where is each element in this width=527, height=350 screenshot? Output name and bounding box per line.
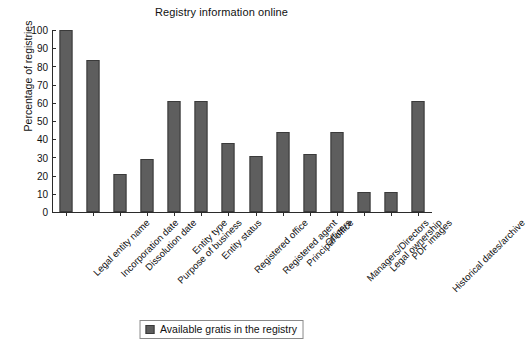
legend-item-label: Available gratis in the registry	[160, 323, 297, 335]
x-tick-mark	[337, 212, 338, 216]
bar-slot	[52, 30, 79, 212]
x-axis-line	[52, 212, 432, 213]
bar	[330, 132, 343, 212]
y-tick-label: 30	[37, 153, 52, 164]
bar-slot	[215, 30, 242, 212]
x-tick-mark	[201, 212, 202, 216]
x-tick-mark	[93, 212, 94, 216]
bar	[113, 174, 126, 212]
bar-slot	[106, 30, 133, 212]
bar-slot	[405, 30, 432, 212]
x-tick-mark	[147, 212, 148, 216]
y-tick: 40	[37, 130, 52, 148]
x-tick-mark	[418, 212, 419, 216]
bar	[195, 101, 208, 212]
y-tick: 20	[37, 167, 52, 185]
bar-slot	[242, 30, 269, 212]
bar-slot	[378, 30, 405, 212]
y-tick: 10	[37, 185, 52, 203]
y-tick-label: 80	[37, 62, 52, 73]
bar	[249, 156, 262, 212]
bar	[276, 132, 289, 212]
bar	[86, 60, 99, 212]
y-tick: 70	[37, 76, 52, 94]
x-tick-mark	[228, 212, 229, 216]
plot-area: 0102030405060708090100	[52, 30, 432, 212]
x-tick-mark	[66, 212, 67, 216]
x-tick-mark	[283, 212, 284, 216]
y-tick-label: 100	[31, 25, 52, 36]
bar-slot	[133, 30, 160, 212]
bar	[140, 159, 153, 212]
x-tick-mark	[391, 212, 392, 216]
bar-slot	[351, 30, 378, 212]
x-tick-mark	[174, 212, 175, 216]
y-tick-label: 10	[37, 189, 52, 200]
bar-slot	[79, 30, 106, 212]
y-tick: 80	[37, 57, 52, 75]
y-tick-label: 0	[42, 207, 52, 218]
x-tick-label: Historical dates/archive	[450, 217, 527, 294]
bar	[412, 101, 425, 212]
bar-slot	[161, 30, 188, 212]
x-tick-mark	[310, 212, 311, 216]
y-tick: 0	[42, 203, 52, 221]
y-tick-label: 90	[37, 43, 52, 54]
legend-swatch-icon	[145, 325, 154, 334]
y-tick: 30	[37, 148, 52, 166]
y-tick: 60	[37, 94, 52, 112]
bar	[222, 143, 235, 212]
bar	[358, 192, 371, 212]
y-tick: 100	[31, 21, 52, 39]
bar	[59, 30, 72, 212]
y-tick: 50	[37, 112, 52, 130]
y-tick-mark	[52, 212, 56, 213]
chart-legend: Available gratis in the registry	[139, 320, 304, 339]
y-tick-label: 20	[37, 171, 52, 182]
bar-slot	[323, 30, 350, 212]
bar-slot	[188, 30, 215, 212]
y-tick: 90	[37, 39, 52, 57]
y-tick-label: 50	[37, 116, 52, 127]
bar-series	[52, 30, 432, 212]
bar-slot	[296, 30, 323, 212]
y-tick-label: 40	[37, 134, 52, 145]
x-tick-mark	[256, 212, 257, 216]
bar	[385, 192, 398, 212]
y-tick-label: 60	[37, 98, 52, 109]
bar-slot	[269, 30, 296, 212]
x-tick-mark	[120, 212, 121, 216]
x-axis-labels: Legal entity nameIncorporation dateDisso…	[52, 217, 432, 307]
bar	[303, 154, 316, 212]
y-tick-label: 70	[37, 80, 52, 91]
x-tick-mark	[364, 212, 365, 216]
chart-title: Registry information online	[0, 6, 443, 18]
bar	[168, 101, 181, 212]
